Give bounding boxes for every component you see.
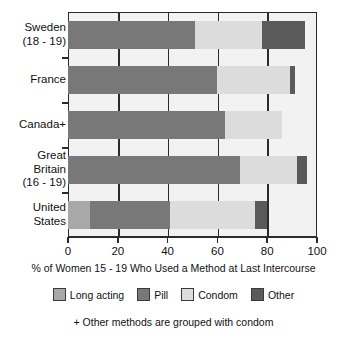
bar-segment-pill (68, 66, 217, 94)
y-axis-tick (62, 192, 69, 194)
bar-segment-condom (195, 21, 262, 49)
legend-label: Other (268, 289, 294, 301)
x-axis-tick-label: 20 (98, 245, 138, 257)
x-axis-tick-0 (67, 237, 69, 243)
y-axis-tick (62, 147, 69, 149)
x-axis-tick-label: 100 (297, 245, 337, 257)
bar-row (68, 66, 317, 94)
y-axis-tick (62, 57, 69, 59)
y-axis-label: United States (0, 201, 66, 228)
legend-item: Condom (181, 288, 238, 301)
legend-swatch-icon (181, 288, 194, 301)
legend-item: Long acting (53, 288, 124, 301)
bar-segment-other (290, 66, 295, 94)
x-axis-tick-80 (266, 237, 268, 243)
bars-layer (68, 12, 317, 237)
y-axis-label: Great Britain (16 - 19) (0, 149, 66, 190)
legend-swatch-icon (53, 288, 66, 301)
legend-item: Other (251, 288, 294, 301)
bar-row (68, 111, 317, 139)
bar-segment-other (255, 201, 267, 229)
x-axis-tick-40 (167, 237, 169, 243)
legend-item: Pill (137, 288, 168, 301)
bar-segment-pill (68, 156, 240, 184)
chart-legend: Long actingPillCondomOther (0, 288, 347, 301)
x-axis-tick-label: 40 (148, 245, 188, 257)
x-axis-tick-60 (217, 237, 219, 243)
bar-segment-other (262, 21, 304, 49)
legend-label: Long acting (70, 289, 124, 301)
bar-segment-condom (170, 201, 255, 229)
bar-segment-other (297, 156, 307, 184)
bar-segment-pill (90, 201, 170, 229)
bar-row (68, 201, 317, 229)
y-axis-tick (62, 102, 69, 104)
legend-label: Condom (198, 289, 238, 301)
bar-segment-condom (240, 156, 297, 184)
bar-row (68, 21, 317, 49)
bar-segment-condom (217, 66, 289, 94)
bar-segment-long-acting (68, 201, 90, 229)
legend-swatch-icon (137, 288, 150, 301)
x-axis-title: % of Women 15 - 19 Who Used a Method at … (0, 262, 347, 274)
stacked-bar-chart: Sweden (18 - 19)FranceCanada+Great Brita… (0, 0, 347, 339)
bar-segment-pill (68, 111, 225, 139)
bar-segment-condom (225, 111, 282, 139)
chart-footnote: + Other methods are grouped with condom (0, 316, 347, 328)
legend-swatch-icon (251, 288, 264, 301)
x-axis-line (68, 236, 317, 238)
x-axis-tick-label: 80 (247, 245, 287, 257)
x-axis-tick-100 (316, 237, 318, 243)
y-axis-label: France (0, 73, 66, 87)
legend-label: Pill (154, 289, 168, 301)
x-axis-tick-20 (117, 237, 119, 243)
bar-row (68, 156, 317, 184)
y-axis-label: Canada+ (0, 118, 66, 132)
y-axis-label: Sweden (18 - 19) (0, 21, 66, 48)
bar-segment-pill (68, 21, 195, 49)
x-axis-tick-label: 0 (48, 245, 88, 257)
x-axis-tick-label: 60 (197, 245, 237, 257)
